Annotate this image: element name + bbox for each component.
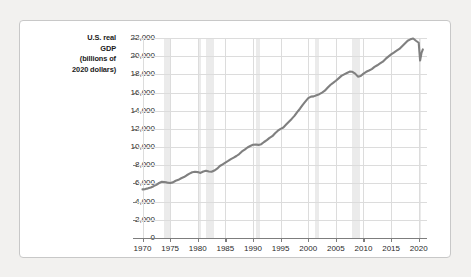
- plot-inner: [137, 38, 427, 238]
- x-axis-tick-mark: [308, 238, 309, 242]
- x-axis-tick-mark: [281, 238, 282, 242]
- x-axis-tick-mark: [198, 238, 199, 242]
- x-axis-line: [137, 238, 427, 239]
- x-axis-tick-label: 2020: [399, 244, 439, 253]
- x-axis-tick-mark: [143, 238, 144, 242]
- x-axis-tick-mark: [336, 238, 337, 242]
- x-axis-tick-mark: [391, 238, 392, 242]
- x-axis-tick-mark: [253, 238, 254, 242]
- gdp-line-path: [143, 38, 423, 189]
- gdp-line-series: [137, 38, 427, 238]
- chart-figure-frame: U.S. real GDP (billions of 2020 dollars)…: [19, 20, 451, 258]
- x-axis-tick-mark: [363, 238, 364, 242]
- x-axis-tick-mark: [419, 238, 420, 242]
- plot-area: [137, 38, 427, 238]
- x-axis-tick-mark: [170, 238, 171, 242]
- x-axis-tick-mark: [225, 238, 226, 242]
